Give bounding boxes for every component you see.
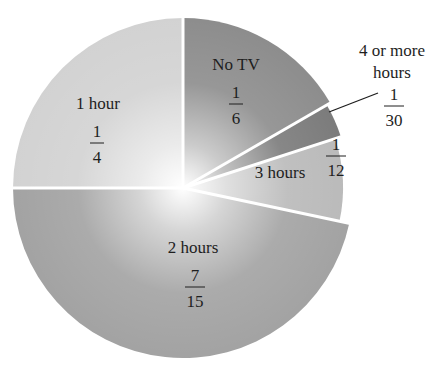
svg-text:1: 1 — [332, 135, 341, 154]
svg-text:1: 1 — [390, 85, 399, 104]
svg-text:4 or more: 4 or more — [359, 41, 425, 60]
leader-line — [329, 93, 378, 112]
svg-text:hours: hours — [373, 63, 411, 82]
svg-text:1: 1 — [232, 83, 241, 102]
svg-text:12: 12 — [328, 161, 345, 180]
pie-chart: No TV 1 6 4 or more hours 1 30 3 hours 1… — [0, 0, 436, 365]
svg-text:7: 7 — [191, 266, 200, 285]
svg-text:15: 15 — [187, 292, 204, 311]
svg-text:No TV: No TV — [212, 55, 260, 74]
svg-text:30: 30 — [386, 111, 403, 130]
label-4-or-more-hours: 4 or more hours 1 30 — [329, 41, 425, 130]
svg-text:6: 6 — [232, 109, 241, 128]
svg-text:3 hours: 3 hours — [255, 163, 306, 182]
svg-text:2 hours: 2 hours — [168, 238, 219, 257]
svg-text:1 hour: 1 hour — [76, 94, 120, 113]
svg-text:4: 4 — [93, 148, 102, 167]
svg-text:1: 1 — [93, 122, 102, 141]
